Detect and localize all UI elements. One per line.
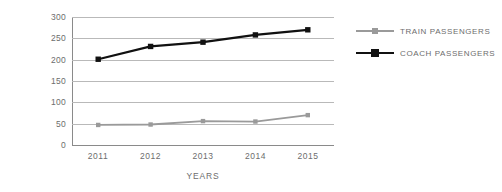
chart-legend: TRAIN PASSENGERS COACH PASSENGERS bbox=[356, 20, 502, 64]
data-point bbox=[96, 57, 101, 62]
line-chart: PASSENGERS (Millions) 300 250 200 150 10… bbox=[0, 0, 502, 192]
data-point bbox=[306, 113, 310, 117]
gridline-0 bbox=[72, 145, 334, 146]
x-tick-label-2015: 2015 bbox=[298, 151, 319, 161]
legend-swatch-coach-icon bbox=[356, 47, 394, 59]
data-point bbox=[253, 32, 258, 37]
y-tick-label: 100 bbox=[51, 97, 66, 107]
x-axis-title: YEARS bbox=[187, 171, 220, 181]
plot-area bbox=[72, 17, 334, 145]
data-point bbox=[96, 123, 100, 127]
x-tick-label-2013: 2013 bbox=[193, 151, 214, 161]
legend-item-coach[interactable]: COACH PASSENGERS bbox=[356, 42, 502, 64]
data-point bbox=[253, 119, 257, 123]
x-tick-label-2011: 2011 bbox=[88, 151, 108, 161]
legend-label-coach: COACH PASSENGERS bbox=[394, 49, 495, 58]
x-tick-label-2012: 2012 bbox=[140, 151, 161, 161]
y-tick-label: 0 bbox=[61, 140, 66, 150]
data-point bbox=[200, 39, 205, 44]
y-tick-label: 50 bbox=[56, 119, 66, 129]
y-tick-label: 150 bbox=[51, 76, 66, 86]
legend-item-train[interactable]: TRAIN PASSENGERS bbox=[356, 20, 502, 42]
y-tick-label: 200 bbox=[51, 55, 66, 65]
y-tick-label: 250 bbox=[51, 33, 66, 43]
series-layer bbox=[72, 17, 334, 145]
legend-swatch-train-icon bbox=[356, 25, 394, 37]
data-point bbox=[305, 27, 310, 32]
data-point bbox=[148, 122, 152, 126]
data-point bbox=[148, 44, 153, 49]
data-point bbox=[201, 119, 205, 123]
y-tick-label: 300 bbox=[51, 12, 66, 22]
x-tick-label-2014: 2014 bbox=[245, 151, 266, 161]
legend-label-train: TRAIN PASSENGERS bbox=[394, 27, 490, 36]
